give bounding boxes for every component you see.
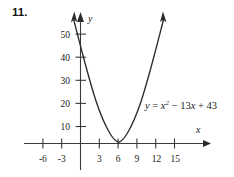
x-axis-label: x (195, 124, 201, 135)
equation-equals: = (150, 100, 161, 111)
y-tick-label: 20 (61, 99, 71, 109)
x-axis-arrow-icon (203, 140, 211, 147)
y-axis-arrow-icon (77, 12, 84, 22)
parabola-graph-figure: 11. -6 -3 3 6 9 12 (0, 0, 234, 177)
x-tick-label: 9 (135, 154, 140, 164)
equation-term3: + 43 (195, 100, 217, 111)
x-tick-label: 6 (116, 154, 121, 164)
x-tick-label: 3 (97, 154, 102, 164)
equation-label: y = x2 − 13x + 43 (145, 101, 217, 112)
equation-term2: − 13 (169, 100, 191, 111)
x-tick-label: 15 (170, 154, 180, 164)
parabola-curve (74, 20, 164, 142)
x-tick-label: -6 (39, 154, 47, 164)
y-tick-label: 10 (61, 122, 71, 132)
x-tick-label: 12 (152, 154, 162, 164)
y-tick-label: 30 (61, 76, 71, 86)
y-tick-label: 40 (61, 53, 71, 63)
y-tick-label: 50 (61, 30, 71, 40)
x-tick-label: -3 (58, 154, 66, 164)
coordinate-plot: -6 -3 3 6 9 12 15 10 20 30 40 50 y x (0, 0, 234, 177)
y-axis-label: y (87, 13, 93, 24)
